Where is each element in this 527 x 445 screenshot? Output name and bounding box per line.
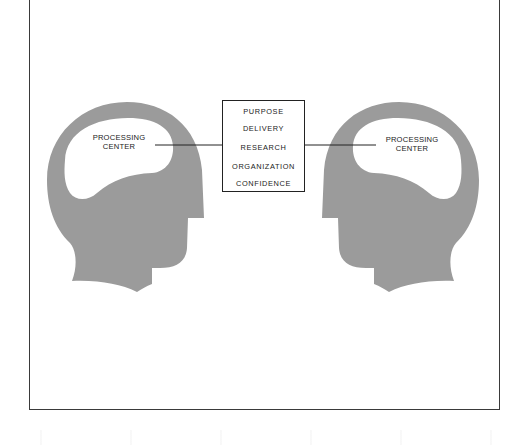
attr-purpose: PURPOSE bbox=[223, 107, 304, 116]
right-processing-center-label: PROCESSING CENTER bbox=[381, 136, 443, 153]
right-label-line2: CENTER bbox=[381, 145, 443, 154]
attr-organization: ORGANIZATION bbox=[223, 162, 304, 171]
left-head bbox=[47, 102, 204, 292]
left-processing-center-label: PROCESSING CENTER bbox=[88, 134, 150, 151]
right-head bbox=[322, 102, 479, 292]
left-label-line2: CENTER bbox=[88, 143, 150, 152]
message-attributes-box: PURPOSE DELIVERY RESEARCH ORGANIZATION C… bbox=[222, 100, 305, 192]
attr-research: RESEARCH bbox=[223, 143, 304, 152]
attr-delivery: DELIVERY bbox=[223, 124, 304, 133]
scan-artifact-strip bbox=[0, 430, 527, 445]
diagram-canvas bbox=[0, 0, 527, 445]
attr-confidence: CONFIDENCE bbox=[223, 179, 304, 188]
